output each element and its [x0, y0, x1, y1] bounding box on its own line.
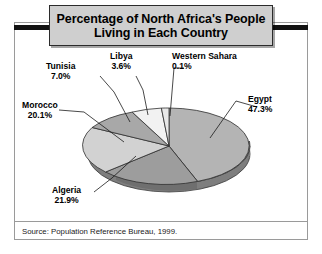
pie-label-tunisia: Tunisia 7.0%	[46, 62, 75, 81]
chart-title-banner: Percentage of North Africa's People Livi…	[49, 5, 273, 46]
title-banner-bar-left	[14, 25, 52, 30]
pie-label-western-sahara: Western Sahara 0.1%	[172, 52, 237, 71]
chart-title: Percentage of North Africa's People Livi…	[50, 12, 272, 40]
pie-label-tunisia-name: Tunisia	[46, 61, 75, 71]
title-banner-bar-right	[270, 25, 308, 30]
source-divider	[15, 221, 307, 222]
pie-label-morocco-name: Morocco	[22, 100, 58, 110]
pie-label-morocco-pct: 20.1%	[22, 111, 58, 121]
pie-label-libya-name: Libya	[110, 51, 132, 61]
pie-label-western-sahara-pct: 0.1%	[172, 62, 237, 72]
pie-label-morocco: Morocco 20.1%	[22, 101, 58, 120]
pie-label-egypt-pct: 47.3%	[248, 105, 272, 115]
pie-label-tunisia-pct: 7.0%	[46, 72, 75, 82]
pie-label-western-sahara-name: Western Sahara	[172, 51, 237, 61]
pie-label-libya: Libya 3.6%	[110, 52, 132, 71]
pie-label-algeria-pct: 21.9%	[52, 196, 81, 206]
pie-slices	[83, 108, 250, 184]
pie-label-libya-pct: 3.6%	[110, 62, 132, 72]
pie-label-algeria-name: Algeria	[52, 185, 81, 195]
pie-label-egypt-name: Egypt	[248, 94, 272, 104]
pie-label-egypt: Egypt 47.3%	[248, 95, 272, 114]
chart-figure: Percentage of North Africa's People Livi…	[0, 0, 322, 254]
source-note: Source: Population Reference Bureau, 199…	[22, 227, 177, 236]
pie-label-algeria: Algeria 21.9%	[52, 186, 81, 205]
